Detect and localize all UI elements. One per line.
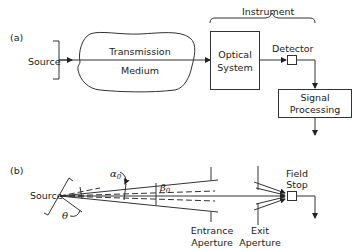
transmission-medium-blob: [78, 32, 195, 91]
signal-label-line1: Signal: [278, 92, 352, 103]
part-b-label: (b): [10, 165, 23, 176]
theta-label: θ: [62, 210, 68, 221]
medium-label-line2: Medium: [105, 65, 175, 76]
exit-label-line2: Aperture: [238, 237, 282, 248]
optical-system-box: [210, 31, 260, 90]
entrance-label-line2: Aperture: [190, 237, 234, 248]
source-b-label: Source: [30, 190, 63, 201]
field-stop-box: [287, 191, 297, 201]
field-stop-label-line2: Stop: [280, 179, 314, 190]
optical-label-line1: Optical: [210, 49, 260, 60]
part-a-label: (a): [10, 32, 23, 43]
instrument-label: Instrument: [242, 6, 294, 17]
source-label: Source: [28, 56, 61, 67]
detector-box: [287, 55, 297, 65]
optical-label-line2: System: [210, 62, 260, 73]
alpha-label: α0: [110, 168, 121, 183]
medium-label-line1: Transmission: [105, 46, 175, 57]
field-stop-label-line1: Field: [280, 168, 314, 179]
signal-label-line2: Processing: [278, 104, 352, 115]
entrance-label-line1: Entrance: [190, 225, 234, 236]
detector-label: Detector: [272, 43, 313, 54]
beta-label: β0: [160, 182, 170, 197]
exit-label-line1: Exit: [238, 225, 282, 236]
diagram-lines: [0, 0, 361, 251]
